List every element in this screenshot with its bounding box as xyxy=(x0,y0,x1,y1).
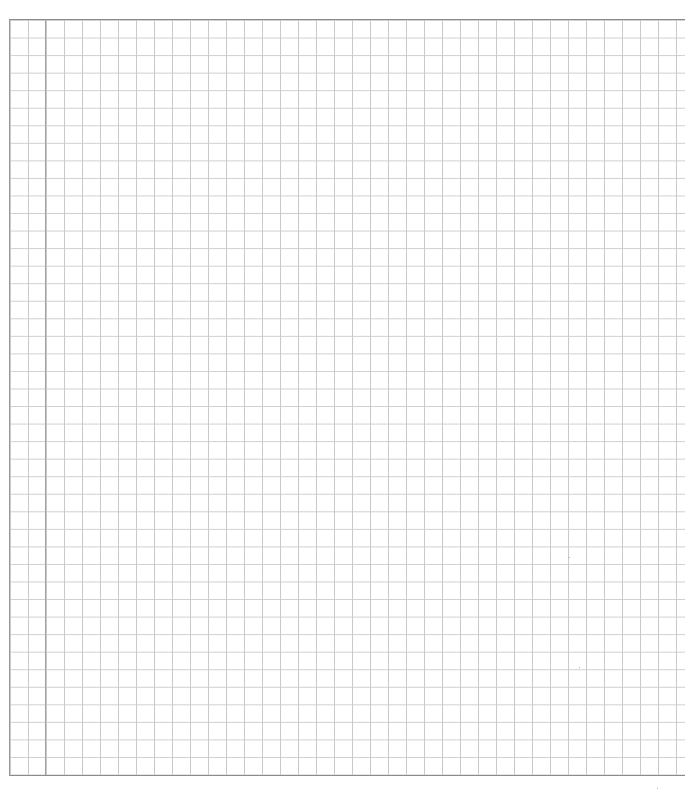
grid-paper-sheet xyxy=(9,19,685,776)
paper-speck xyxy=(657,788,658,789)
margin-line xyxy=(45,19,46,775)
paper-speck xyxy=(579,667,580,668)
paper-speck xyxy=(569,557,570,558)
